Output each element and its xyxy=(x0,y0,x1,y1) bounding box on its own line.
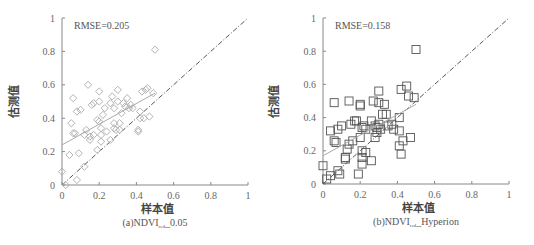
x-tick-label: 0.2 xyxy=(354,189,367,200)
data-point-square xyxy=(403,82,411,90)
data-point-square xyxy=(345,97,353,105)
rmse-annotation: RMSE=0.158 xyxy=(335,20,390,31)
x-tick-label: 0.8 xyxy=(205,190,218,201)
y-tick-label: 1 xyxy=(50,13,55,24)
data-point-square xyxy=(360,122,368,130)
y-axis-label: 估测值 xyxy=(7,85,21,119)
x-tick-label: 0.2 xyxy=(93,190,106,201)
x-tick-label: 0.4 xyxy=(130,190,143,201)
data-point-square xyxy=(380,100,388,108)
data-point-diamond xyxy=(96,88,103,95)
data-point-square xyxy=(412,46,420,54)
figure: 00.20.40.60.8100.20.40.60.81RMSE=0.205估测… xyxy=(0,0,534,245)
data-point-diamond xyxy=(114,86,121,93)
x-tick-label: 0.8 xyxy=(466,189,479,200)
data-point-diamond xyxy=(99,111,106,118)
data-point-diamond xyxy=(75,150,82,157)
data-point-diamond xyxy=(68,120,75,127)
y-tick-label: 0 xyxy=(50,180,55,191)
data-point-square xyxy=(367,157,375,165)
x-tick-label: 0.6 xyxy=(167,190,180,201)
data-point-diamond xyxy=(84,81,91,88)
data-point-diamond xyxy=(73,108,80,115)
data-point-square xyxy=(332,139,340,147)
data-point-square xyxy=(397,85,405,93)
x-tick-label: 1 xyxy=(246,190,251,201)
data-point-square xyxy=(356,102,364,110)
data-point-square xyxy=(375,99,383,107)
caption-suffix: _Hyperion xyxy=(415,216,459,227)
caption-prefix: (b)NDVI xyxy=(373,216,410,228)
data-point-diamond xyxy=(151,46,158,53)
data-point-square xyxy=(330,99,338,107)
data-point-square xyxy=(330,137,338,145)
data-point-square xyxy=(356,100,364,108)
data-point-square xyxy=(341,153,349,161)
y-tick-label: 0 xyxy=(311,179,316,190)
x-tick-label: 0 xyxy=(60,190,65,201)
data-point-diamond xyxy=(77,106,84,113)
caption-suffix: _0.05 xyxy=(164,217,188,228)
one-to-one-line xyxy=(323,18,509,184)
rmse-annotation: RMSE=0.205 xyxy=(74,20,129,31)
data-point-square xyxy=(375,87,383,95)
data-point-square xyxy=(354,170,362,178)
data-point-square xyxy=(410,94,418,102)
panel-a-ndvi-red-0.05: 00.20.40.60.8100.20.40.60.81RMSE=0.205估测… xyxy=(7,13,251,230)
data-point-diamond xyxy=(66,151,73,158)
y-tick-label: 0.6 xyxy=(304,79,317,90)
y-tick-label: 0.6 xyxy=(43,79,56,90)
data-point-square xyxy=(336,170,344,178)
y-tick-label: 0.8 xyxy=(43,46,56,57)
data-point-square xyxy=(390,125,398,133)
data-point-square xyxy=(395,127,403,135)
data-point-diamond xyxy=(94,146,101,153)
y-tick-label: 0.2 xyxy=(304,145,317,156)
panel-b-ndvi-red-hyperion: 00.20.40.60.8100.20.40.60.81RMSE=0.158估测… xyxy=(267,13,512,229)
y-tick-label: 0.4 xyxy=(304,112,317,123)
data-point-diamond xyxy=(101,105,108,112)
x-tick-label: 1 xyxy=(507,189,512,200)
y-tick-label: 0.2 xyxy=(43,146,56,157)
data-point-diamond xyxy=(70,95,77,102)
data-point-square xyxy=(369,97,377,105)
panel-caption: (a)NDVIred_0.05 xyxy=(123,217,188,229)
caption-prefix: (a)NDVI xyxy=(123,217,159,229)
x-tick-label: 0 xyxy=(321,189,326,200)
x-tick-label: 0.4 xyxy=(391,189,404,200)
one-to-one-line xyxy=(62,18,248,185)
y-tick-label: 0.4 xyxy=(43,113,56,124)
data-point-square xyxy=(397,150,405,158)
panel-caption: (b)NDVIred_Hyperion xyxy=(373,216,459,228)
y-tick-label: 1 xyxy=(311,13,316,24)
data-point-diamond xyxy=(73,176,80,183)
data-point-diamond xyxy=(109,93,116,100)
x-tick-label: 0.6 xyxy=(428,189,441,200)
data-point-square xyxy=(326,127,334,135)
data-point-square xyxy=(405,92,413,100)
y-axis-label: 估测值 xyxy=(267,85,281,119)
x-axis-label: 样本值 xyxy=(402,201,435,215)
data-point-square xyxy=(406,134,414,142)
data-point-square xyxy=(343,145,351,153)
x-axis-label: 样本值 xyxy=(141,202,174,216)
y-tick-label: 0.8 xyxy=(304,46,317,57)
